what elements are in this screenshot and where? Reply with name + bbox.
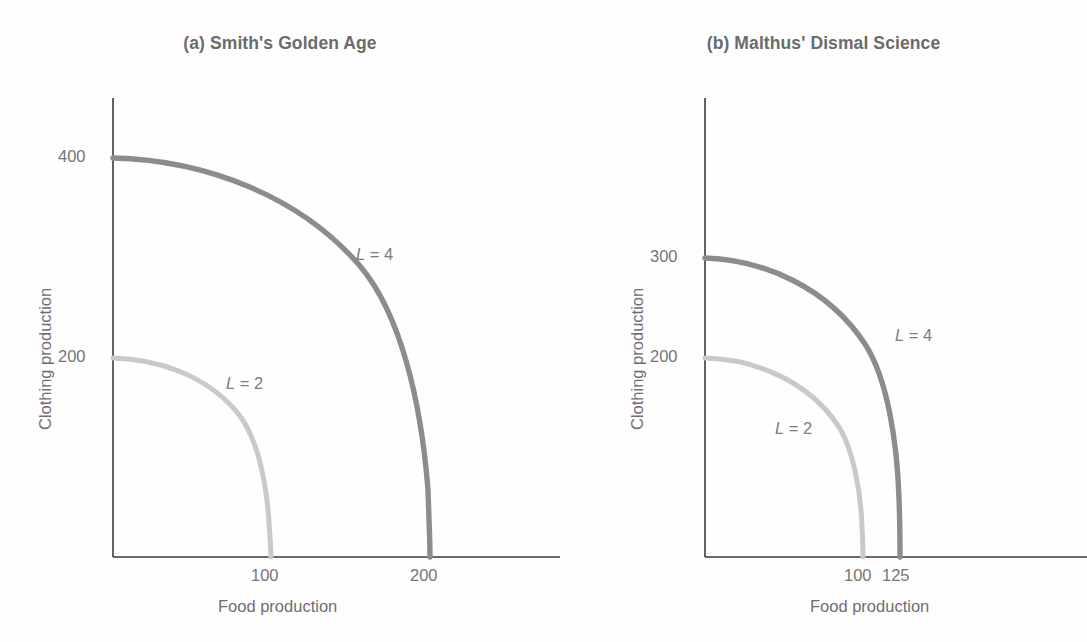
- panel-a-ytick-400: 400: [58, 147, 86, 166]
- panel-a-plot: [0, 0, 560, 642]
- panel-b-curve-l2: [705, 358, 863, 557]
- figure-container: (a) Smith's Golden Age 400 200 100 200 C…: [0, 0, 1087, 642]
- panel-a-curve-label-l2: L = 2: [226, 374, 263, 393]
- panel-b-curve-label-l4: L = 4: [895, 326, 932, 345]
- panel-a-x-axis-label: Food production: [218, 597, 337, 616]
- panel-b-xtick-100: 100: [844, 566, 872, 585]
- panel-b-curve-l4: [705, 258, 900, 557]
- panel-b-xtick-125: 125: [882, 566, 910, 585]
- panel-b-ytick-300: 300: [650, 247, 678, 266]
- panel-b-curve-label-l2: L = 2: [775, 419, 812, 438]
- panel-a-ytick-200: 200: [58, 347, 86, 366]
- panel-b-y-axis-label: Clothing production: [628, 288, 647, 430]
- panel-a-curve-label-l4: L = 4: [356, 245, 393, 264]
- panel-b-ytick-200: 200: [650, 347, 678, 366]
- panel-a-xtick-100: 100: [251, 566, 279, 585]
- panel-a-xtick-200: 200: [410, 566, 438, 585]
- panel-b-x-axis-label: Food production: [810, 597, 929, 616]
- panel-malthus-dismal-science: (b) Malthus' Dismal Science 300 200 100 …: [560, 0, 1087, 642]
- panel-a-y-axis-label: Clothing production: [36, 288, 55, 430]
- panel-smiths-golden-age: (a) Smith's Golden Age 400 200 100 200 C…: [0, 0, 560, 642]
- panel-a-curve-l4: [113, 158, 430, 557]
